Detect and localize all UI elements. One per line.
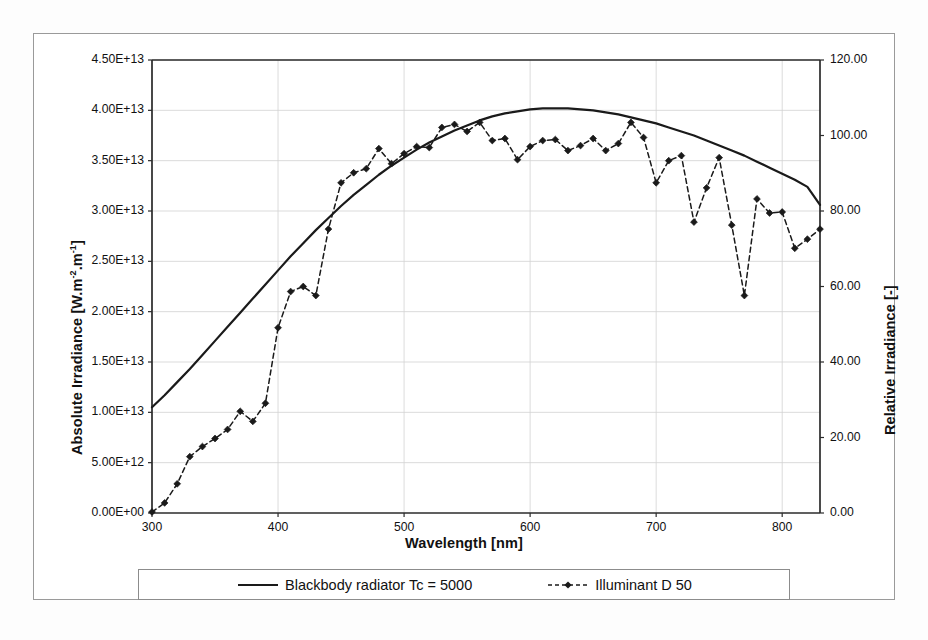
y-axis-left-title: Absolute Irradiance [W.m-2.m-1]	[68, 240, 85, 455]
y-tick-label-left: 1.00E+13	[70, 404, 144, 418]
y-axis-left-title-end: ]	[69, 240, 85, 245]
x-tick-label: 300	[126, 520, 178, 534]
legend-key-dashed-marker-icon	[546, 578, 590, 592]
y-tick-label-right: 80.00	[830, 203, 900, 217]
legend-label: Blackbody radiator Tc = 5000	[285, 577, 472, 593]
legend-label: Illuminant D 50	[595, 577, 692, 593]
y-tick-label-left: 2.50E+13	[70, 253, 144, 267]
legend-item[interactable]: Illuminant D 50	[546, 577, 692, 593]
y-axis-left-title-sup1: -2	[68, 270, 78, 278]
x-tick-label: 700	[630, 520, 682, 534]
y-tick-label-right: 100.00	[830, 128, 900, 142]
y-tick-label-left: 0.00E+00	[70, 505, 144, 519]
y-tick-label-left: 1.50E+13	[70, 354, 144, 368]
figure-border	[33, 33, 895, 600]
legend-box: Blackbody radiator Tc = 5000Illuminant D…	[138, 569, 790, 600]
figure-container: Absolute Irradiance [W.m-2.m-1] Relative…	[0, 0, 928, 640]
x-tick-label: 600	[504, 520, 556, 534]
y-tick-label-right: 20.00	[830, 430, 900, 444]
x-axis-title: Wavelength [nm]	[0, 535, 928, 551]
y-tick-label-right: 120.00	[830, 52, 900, 66]
y-tick-label-right: 60.00	[830, 279, 900, 293]
y-tick-label-left: 2.00E+13	[70, 304, 144, 318]
y-axis-left-title-sup2: -1	[68, 245, 78, 253]
y-tick-label-left: 4.00E+13	[70, 102, 144, 116]
legend-key-solid-line-icon	[236, 578, 280, 592]
y-tick-label-left: 3.50E+13	[70, 153, 144, 167]
y-tick-label-left: 3.00E+13	[70, 203, 144, 217]
y-tick-label-right: 0.00	[830, 505, 900, 519]
legend-item[interactable]: Blackbody radiator Tc = 5000	[236, 577, 472, 593]
x-tick-label: 500	[378, 520, 430, 534]
y-tick-label-left: 5.00E+12	[70, 455, 144, 469]
legend-row: Blackbody radiator Tc = 5000Illuminant D…	[139, 570, 789, 599]
y-tick-label-left: 4.50E+13	[70, 52, 144, 66]
x-tick-label: 800	[756, 520, 808, 534]
y-tick-label-right: 40.00	[830, 354, 900, 368]
x-tick-label: 400	[252, 520, 304, 534]
